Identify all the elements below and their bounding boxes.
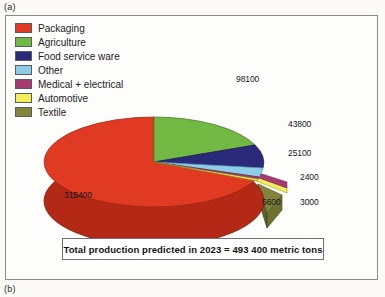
legend-label-textile: Textile — [38, 107, 66, 118]
value-label-agriculture: 98100 — [236, 74, 259, 84]
value-label-medical-electrical: 2400 — [300, 172, 319, 182]
chart-legend: Packaging Agriculture Food service ware … — [15, 21, 165, 119]
legend-item-medical-electrical: Medical + electrical — [15, 77, 165, 91]
panel-label-b: (b) — [4, 284, 16, 294]
total-production-callout: Total production predicted in 2023 = 493… — [62, 238, 324, 260]
value-label-packaging: 315400 — [64, 190, 92, 200]
legend-swatch-medical-electrical — [15, 79, 32, 89]
legend-swatch-textile — [15, 107, 32, 117]
value-label-food-service-ware: 43800 — [288, 119, 311, 129]
pie-slice-food-service-ware-top — [154, 145, 264, 168]
legend-swatch-food-service-ware — [15, 51, 32, 61]
figure-page: (a) Packaging Agriculture Food service w… — [0, 0, 385, 297]
legend-label-other: Other — [38, 65, 63, 76]
pie-slice-automotive-top — [154, 162, 258, 181]
panel-label-a: (a) — [4, 2, 16, 12]
chart-frame: Packaging Agriculture Food service ware … — [5, 15, 378, 280]
total-production-text: Total production predicted in 2023 = 493… — [63, 244, 322, 255]
legend-label-agriculture: Agriculture — [38, 37, 86, 48]
legend-item-packaging: Packaging — [15, 21, 165, 35]
legend-item-other: Other — [15, 63, 165, 77]
legend-swatch-packaging — [15, 23, 32, 33]
legend-item-textile: Textile — [15, 105, 165, 119]
pie-slice-other-top — [154, 162, 263, 177]
value-label-textile: 5600 — [262, 197, 281, 207]
pie-slice-automotive-sliver — [256, 176, 287, 193]
legend-item-food-service-ware: Food service ware — [15, 49, 165, 63]
legend-label-medical-electrical: Medical + electrical — [38, 79, 123, 90]
pie-slice-textile-top — [258, 184, 282, 213]
legend-label-food-service-ware: Food service ware — [38, 51, 120, 62]
pie-slice-agriculture-top — [154, 117, 255, 162]
pie-slice-medical-electrical-top — [154, 162, 259, 179]
legend-swatch-agriculture — [15, 37, 32, 47]
pie-slice-packaging-top — [44, 117, 257, 207]
legend-label-automotive: Automotive — [38, 93, 88, 104]
legend-label-packaging: Packaging — [38, 23, 85, 34]
legend-swatch-automotive — [15, 93, 32, 103]
value-label-other: 25100 — [288, 148, 311, 158]
pie-slice-textile-side-2 — [267, 195, 282, 228]
legend-item-automotive: Automotive — [15, 91, 165, 105]
legend-item-agriculture: Agriculture — [15, 35, 165, 49]
pie-slice-medical-sliver — [256, 172, 287, 188]
legend-swatch-other — [15, 65, 32, 75]
pie-body-side — [44, 156, 264, 246]
value-label-automotive: 3000 — [300, 197, 319, 207]
pie-slice-textile-side — [258, 184, 267, 228]
